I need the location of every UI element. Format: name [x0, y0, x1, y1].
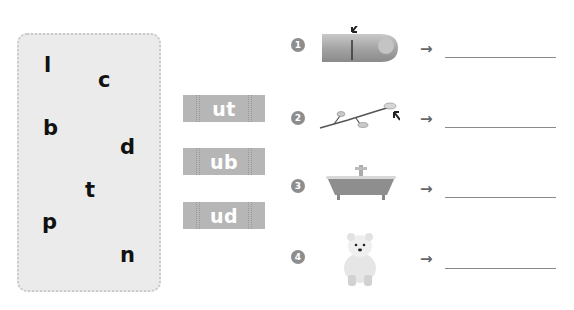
ending-chip-ub[interactable]: ub — [183, 148, 265, 175]
letter-n[interactable]: n — [120, 245, 135, 266]
letter-b[interactable]: b — [43, 118, 58, 139]
arrow-icon: → — [420, 180, 433, 198]
letter-d[interactable]: d — [120, 137, 135, 158]
ending-chip-ud[interactable]: ud — [183, 202, 265, 229]
finger-cut-icon — [318, 26, 398, 66]
letter-c[interactable]: c — [98, 70, 110, 91]
item-number-badge: 1 — [291, 38, 305, 52]
item-number-badge: 2 — [291, 111, 305, 125]
answer-line-2[interactable] — [445, 127, 556, 128]
arrow-icon: → — [420, 250, 433, 268]
polar-bear-icon — [340, 231, 380, 287]
arrow-icon: → — [420, 110, 433, 128]
answer-line-4[interactable] — [445, 268, 556, 269]
branch-bud-icon — [318, 98, 400, 132]
item-number-badge: 3 — [291, 179, 305, 193]
letters-panel — [17, 33, 161, 292]
item-number-badge: 4 — [291, 250, 305, 264]
answer-line-3[interactable] — [445, 197, 556, 198]
bathtub-icon — [325, 165, 397, 201]
letter-p[interactable]: p — [42, 212, 57, 233]
ending-chip-ut[interactable]: ut — [183, 95, 265, 122]
answer-line-1[interactable] — [445, 57, 556, 58]
letter-t[interactable]: t — [85, 180, 95, 201]
arrow-icon: → — [420, 40, 433, 58]
letter-l[interactable]: l — [44, 55, 51, 76]
